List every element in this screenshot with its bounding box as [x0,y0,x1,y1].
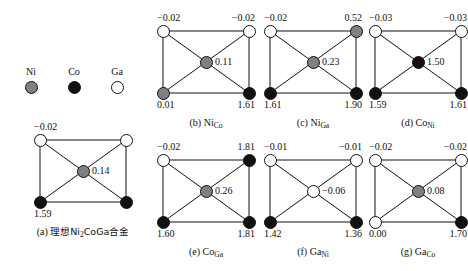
atom-co-bl-icon [34,196,47,209]
atom-ni-bl-icon [157,87,170,100]
atom-ga-tl-icon [157,25,170,38]
moment-value-bot-left-e: 1.60 [157,228,175,239]
atom-co-ct-icon [412,56,425,69]
node-tl-a [34,134,47,147]
node-ct-f [307,185,320,198]
caption-d: (d) CoNi [401,117,434,130]
moment-value-top-left-b: −0.02 [157,12,180,23]
atom-ga-tl-icon [34,134,47,147]
legend-item-ga: Ga [100,66,134,94]
atom-ga-tr-icon [455,25,468,38]
unit-cell-c: −0.020.521.611.900.23 [270,31,356,93]
moment-value-center-e: 0.26 [215,185,233,196]
atom-ga-tl-icon [157,154,170,167]
node-tr-b [243,25,256,38]
caption-e: (e) CoGa [189,246,223,259]
moment-value-top-right-e: 1.81 [238,141,256,152]
moment-value-center-g: 0.08 [427,185,445,196]
node-tl-d [369,25,382,38]
moment-value-center-a: 0.14 [92,165,110,176]
moment-value-top-left-e: −0.02 [157,141,180,152]
moment-value-bot-right-e: 1.81 [238,228,256,239]
moment-value-top-left-f: −0.01 [264,141,287,152]
moment-value-bot-left-c: 1.61 [264,99,282,110]
atom-ni-ct-icon [412,185,425,198]
moment-value-top-right-c: 0.52 [345,12,363,23]
moment-value-bot-left-d: 1.59 [369,99,387,110]
atom-co-br-icon [120,196,133,209]
node-bl-e [157,216,170,229]
moment-value-center-c: 0.23 [322,56,340,67]
node-tl-g [369,154,382,167]
moment-value-top-left-g: −0.02 [369,141,392,152]
legend-label-co: Co [57,66,91,78]
atom-ga-bl-icon [369,216,382,229]
moment-value-bot-right-g: 1.70 [450,228,468,239]
atom-ni-ct-icon [77,165,90,178]
moment-value-center-b: 0.11 [215,56,232,67]
unit-cell-d: −0.03−0.031.591.611.50 [375,31,461,93]
moment-value-top-left-c: −0.02 [264,12,287,23]
atom-co-tr-icon [243,154,256,167]
atom-ga-tr-icon [455,154,468,167]
node-tl-f [264,154,277,167]
moment-value-bot-right-b: 1.61 [238,99,256,110]
structure-cell-a: −0.021.590.14(a) 理想Ni2CoGa合金 [40,140,126,202]
moment-value-bot-right-f: 1.36 [345,228,363,239]
node-bl-d [369,87,382,100]
legend-swatch-ni-icon [25,81,38,94]
node-ct-b [200,56,213,69]
node-bl-a [34,196,47,209]
atom-ga-tr-icon [243,25,256,38]
caption-f: (f) GaNi [297,246,329,259]
unit-cell-g: −0.02−0.020.001.700.08 [375,160,461,222]
moment-value-top-right-g: −0.02 [444,141,467,152]
legend-item-co: Co [57,66,91,94]
node-tl-b [157,25,170,38]
node-tr-d [455,25,468,38]
atom-ni-ct-icon [307,56,320,69]
atom-ni-ct-icon [200,185,213,198]
node-ct-c [307,56,320,69]
moment-value-bot-left-f: 1.42 [264,228,282,239]
atom-co-bl-icon [369,87,382,100]
legend-label-ni: Ni [14,66,48,78]
node-br-b [243,87,256,100]
structure-cell-b: −0.02−0.020.011.610.11(b) NiCo [163,31,249,93]
atom-ga-tl-icon [369,25,382,38]
structure-cell-e: −0.021.811.601.810.26(e) CoGa [163,160,249,222]
atom-co-br-icon [350,216,363,229]
caption-a: (a) 理想Ni2CoGa合金 [37,226,130,239]
moment-value-top-left-d: −0.03 [369,12,392,23]
atom-ga-tr-icon [120,134,133,147]
moment-value-center-f: −0.06 [322,185,345,196]
atom-co-br-icon [243,87,256,100]
moment-value-bot-left-a: 1.59 [34,208,52,219]
moment-value-top-right-d: −0.03 [444,12,467,23]
legend-swatch-ga-icon [111,81,124,94]
node-br-d [455,87,468,100]
atom-co-bl-icon [157,216,170,229]
node-bl-c [264,87,277,100]
node-tr-a [120,134,133,147]
node-br-a [120,196,133,209]
node-br-g [455,216,468,229]
node-tr-e [243,154,256,167]
legend-label-ga: Ga [100,66,134,78]
structure-cell-d: −0.03−0.031.591.611.50(d) CoNi [375,31,461,93]
unit-cell-f: −0.01−0.011.421.36−0.06 [270,160,356,222]
atom-co-br-icon [350,87,363,100]
moment-value-top-right-f: −0.01 [339,141,362,152]
atom-co-bl-icon [264,216,277,229]
node-bl-g [369,216,382,229]
unit-cell-b: −0.02−0.020.011.610.11 [163,31,249,93]
atom-co-br-icon [455,216,468,229]
structure-cell-c: −0.020.521.611.900.23(c) NiGa [270,31,356,93]
node-br-c [350,87,363,100]
node-tr-f [350,154,363,167]
node-tr-g [455,154,468,167]
moment-value-bot-right-d: 1.61 [450,99,468,110]
moment-value-center-d: 1.50 [427,56,445,67]
node-bl-f [264,216,277,229]
moment-value-bot-left-b: 0.01 [157,99,175,110]
